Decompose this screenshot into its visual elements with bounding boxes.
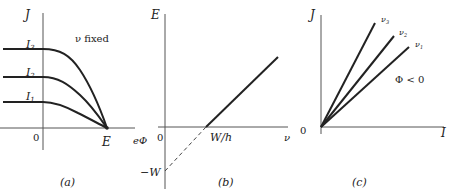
- panel-a-caption: (a): [60, 176, 75, 189]
- panel-a-e-label: E: [101, 135, 111, 149]
- line-nu3: [321, 23, 375, 127]
- energy-line: [206, 57, 278, 127]
- panel-b: E 0 W/h ν −W (b): [140, 8, 290, 189]
- extrapolated-line: [165, 127, 206, 171]
- label-i3: I3: [25, 38, 35, 52]
- panel-a-y-label: J: [22, 8, 31, 22]
- panel-b-caption: (b): [218, 176, 234, 189]
- panel-c-origin: 0: [300, 125, 306, 136]
- panel-b-y-label: E: [150, 8, 160, 22]
- label-nu2: ν2: [399, 28, 407, 38]
- panel-a-x-label: eΦ: [133, 135, 147, 146]
- panel-c-caption: (c): [352, 176, 367, 189]
- panel-b-origin: 0: [157, 132, 163, 143]
- panel-c-note: Φ < 0: [395, 74, 424, 85]
- panel-c-y-label: J: [307, 8, 316, 22]
- label-i1: I1: [25, 90, 35, 104]
- label-nu1: ν1: [415, 40, 423, 50]
- photoelectric-diagrams: J ν fixed I3 I2 I1 0 E eΦ (a) E 0 W/h ν …: [0, 0, 449, 194]
- panel-c: J ν3 ν2 ν1 Φ < 0 0 I (c): [300, 8, 446, 189]
- panel-c-x-label: I: [440, 126, 446, 140]
- line-nu2: [321, 36, 394, 127]
- line-nu1: [321, 47, 409, 127]
- panel-a-note: ν fixed: [75, 33, 109, 44]
- label-nu3: ν3: [381, 15, 389, 25]
- panel-a: J ν fixed I3 I2 I1 0 E eΦ (a): [0, 8, 147, 189]
- panel-a-origin: 0: [33, 132, 39, 143]
- panel-b-y-intercept: −W: [140, 166, 162, 179]
- panel-b-x-intercept: W/h: [210, 131, 232, 144]
- point-e: [105, 126, 109, 130]
- curve-i3: [3, 49, 107, 128]
- panel-b-x-label: ν: [284, 132, 290, 143]
- label-i2: I2: [25, 66, 35, 80]
